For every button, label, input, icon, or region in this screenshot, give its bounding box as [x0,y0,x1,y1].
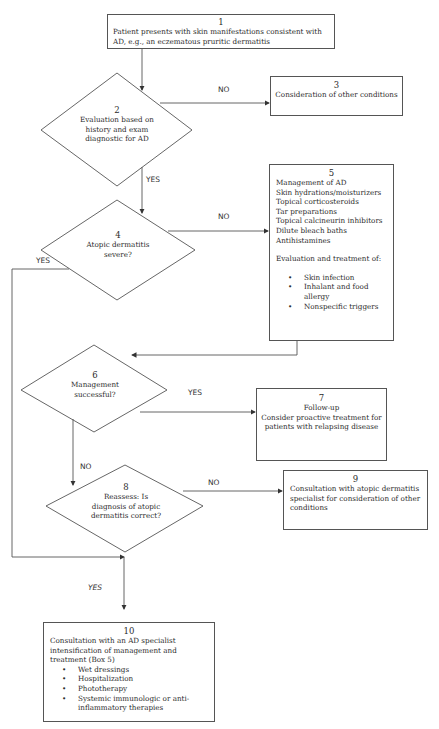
box-5-title: Management of AD [276,178,387,188]
box-10-bullet: Systemic immunologic or anti-inflammator… [50,694,208,713]
box-7-follow-up: 7 Follow-up Consider proactive treatment… [256,388,387,461]
box-9-text: Consultation with atopic dermatitis spec… [290,484,420,512]
box-5-item: Skin hydrations/moisturizers [276,188,387,198]
box-5-bullet: Nonspecific triggers [276,302,387,312]
box-5-management: 5 Management of AD Skin hydrations/moist… [269,164,394,341]
box-10-bullet: Wet dressings [50,665,208,675]
label-d6-no: NO [80,462,92,471]
box-1-patient-presents: 1 Patient presents with skin manifestati… [107,14,335,49]
label-d4-no: NO [218,212,230,221]
diamond-4-number: 4 [78,230,158,240]
box-5-subheading: Evaluation and treatment of: [276,254,387,264]
box-5-item: Dilute bleach baths [276,226,387,236]
box-5-item: Antihistamines [276,236,387,246]
box-3-number: 3 [274,80,399,90]
diamond-6-success: 6 Management successful? [60,370,130,399]
box-5-bullet: Skin infection [276,273,387,283]
box-10-bullet: Phototherapy [50,684,208,694]
box-10-text: Consultation with an AD specialist inten… [50,636,208,665]
box-7-number: 7 [261,393,382,403]
label-d2-no: NO [218,85,230,94]
label-d6-yes: YES [188,388,202,397]
diamond-2-evaluation: 2 Evaluation based on history and exam d… [74,105,160,144]
box-9-number: 9 [290,474,421,484]
diamond-8-number: 8 [88,482,164,492]
label-d4-yes: YES [36,256,50,265]
diamond-8-text: Reassess: Is diagnosis of atopic dermati… [91,492,161,520]
diamond-6-number: 6 [60,370,130,380]
box-5-item: Tar preparations [276,207,387,217]
box-10-bullet-list: Wet dressings Hospitalization Photothera… [50,665,208,713]
box-7-text: Consider proactive treatment for patient… [261,413,382,432]
diamond-8-reassess: 8 Reassess: Is diagnosis of atopic derma… [88,482,164,521]
box-5-number: 5 [276,168,387,178]
diamond-2-number: 2 [74,105,160,115]
box-10-bullet: Hospitalization [50,674,208,684]
box-7-title: Follow-up [261,403,382,413]
box-10-intensification: 10 Consultation with an AD specialist in… [43,622,215,722]
diamond-6-text: Management successful? [71,380,119,399]
box-1-number: 1 [113,17,329,27]
diamond-2-text: Evaluation based on history and exam dia… [80,115,154,143]
diamond-4-text: Atopic dermatitis severe? [87,240,150,259]
label-to10-yes: YES [88,583,102,592]
box-3-text: Consideration of other conditions [275,90,397,99]
box-5-bullet: Inhalant and food allergy [276,282,387,301]
label-d2-yes: YES [146,175,160,184]
diamond-4-severity: 4 Atopic dermatitis severe? [78,230,158,259]
box-1-text: Patient presents with skin manifestation… [113,27,322,46]
box-10-number: 10 [50,626,208,636]
box-5-item: Topical calcineurin inhibitors [276,216,387,226]
label-d8-no: NO [208,478,220,487]
box-9-specialist-consult: 9 Consultation with atopic dermatitis sp… [283,470,428,530]
box-5-item: Topical corticosteroids [276,197,387,207]
box-5-bullet-list: Skin infection Inhalant and food allergy… [276,273,387,311]
box-3-other-conditions: 3 Consideration of other conditions [270,76,403,116]
